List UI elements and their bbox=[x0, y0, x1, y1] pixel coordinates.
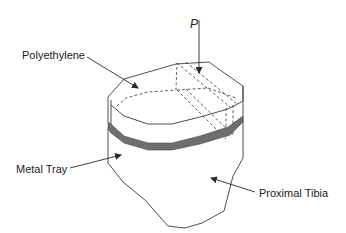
polyethylene-insert bbox=[108, 62, 243, 139]
implant-diagram: P Polyethylene Metal Tray Proximal Tibia bbox=[0, 0, 346, 233]
proximal-tibia-callout: Proximal Tibia bbox=[211, 178, 329, 199]
metal-tray-callout: Metal Tray bbox=[16, 155, 121, 175]
load-label: P bbox=[190, 17, 198, 31]
load-arrow: P bbox=[190, 17, 199, 73]
metal-tray-label: Metal Tray bbox=[16, 163, 68, 175]
polyethylene-label: Polyethylene bbox=[22, 49, 85, 61]
proximal-tibia-label: Proximal Tibia bbox=[259, 187, 329, 199]
metal-tray bbox=[108, 116, 243, 150]
